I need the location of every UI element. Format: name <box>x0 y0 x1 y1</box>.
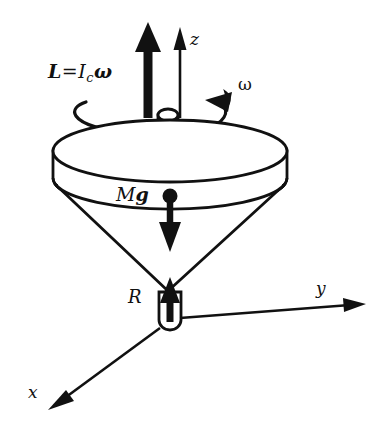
angular-momentum-arrow <box>135 22 161 118</box>
x-axis-arrow <box>48 328 160 410</box>
spinning-top-diagram: L=Icω z ω Mg R y x <box>0 0 386 432</box>
spin-rate-label: ω <box>238 76 252 93</box>
label-mass-symbol: M <box>116 183 135 205</box>
z-axis-arrow <box>174 27 187 118</box>
label-omega-symbol: ω <box>94 60 113 82</box>
y-axis-arrow <box>180 298 366 318</box>
x-axis-label: x <box>28 384 38 401</box>
y-axis-label: y <box>316 280 326 297</box>
weight-label: Mg <box>116 185 149 204</box>
label-inertia-subscript: c <box>86 70 94 85</box>
reaction-label: R <box>128 288 142 306</box>
label-gravity-symbol: g <box>135 183 148 205</box>
angular-momentum-label: L=Icω <box>48 62 113 85</box>
label-L-symbol: L <box>48 60 62 82</box>
z-axis-label: z <box>190 31 199 48</box>
label-equals: = <box>62 60 78 82</box>
